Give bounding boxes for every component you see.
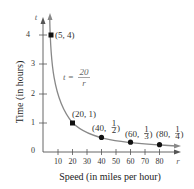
y-tick-1: 1 <box>31 118 35 127</box>
equation-denominator: r <box>82 78 86 88</box>
svg-text:(40,: (40, <box>92 123 106 133</box>
x-tick-60: 60 <box>127 157 135 166</box>
curve-arrow-right-icon <box>174 144 181 149</box>
svg-text:(80,: (80, <box>156 129 170 139</box>
t-axis-var: t <box>35 12 38 22</box>
svg-text:3: 3 <box>144 131 149 141</box>
x-tick-40: 40 <box>98 157 106 166</box>
x-axis-arrow-icon <box>174 150 181 155</box>
x-tick-20: 20 <box>69 157 77 166</box>
x-tick-10: 10 <box>54 157 62 166</box>
svg-text:): ) <box>181 129 184 139</box>
point-5-4 <box>49 33 54 38</box>
point-40-half <box>99 135 104 140</box>
chart: 4 3 2 1 0 t 10 20 30 40 50 60 70 80 r Sp… <box>0 0 194 189</box>
x-tick-30: 30 <box>83 157 91 166</box>
svg-text:): ) <box>150 129 153 139</box>
r-axis-var: r <box>176 156 180 166</box>
svg-text:(60,: (60, <box>125 129 139 139</box>
point-80-quarter <box>157 142 162 147</box>
x-tick-50: 50 <box>112 157 120 166</box>
y-axis-arrow-icon <box>41 17 46 24</box>
x-tick-70: 70 <box>141 157 149 166</box>
equation-lhs: t = <box>63 72 74 82</box>
point-label-5-4: (5, 4) <box>55 30 75 40</box>
point-label-20-1: (20, 1) <box>72 109 96 119</box>
curve-arrow-up-icon <box>48 13 53 20</box>
point-60-third <box>128 140 133 145</box>
y-tick-2: 2 <box>31 89 35 98</box>
point-label-40-half: (40, 1 2 ) <box>92 118 120 135</box>
point-label-60-third: (60, 1 3 ) <box>125 124 153 141</box>
origin-label: 0 <box>31 146 35 155</box>
point-20-1 <box>70 121 75 126</box>
x-tick-80: 80 <box>156 157 164 166</box>
equation-numerator: 20 <box>80 67 90 77</box>
point-label-80-quarter: (80, 1 4 ) <box>156 124 184 141</box>
svg-text:): ) <box>117 123 120 133</box>
y-axis-title: Time (in hours) <box>14 61 26 123</box>
svg-text:4: 4 <box>175 131 180 141</box>
y-tick-4: 4 <box>26 30 30 39</box>
x-axis-title: Speed (in miles per hour) <box>59 171 161 183</box>
svg-text:2: 2 <box>112 125 117 135</box>
y-tick-3: 3 <box>31 59 35 68</box>
